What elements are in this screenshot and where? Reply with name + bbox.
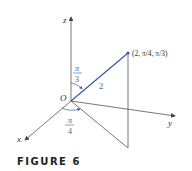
y-axis-label: y bbox=[167, 118, 172, 128]
x-axis bbox=[25, 101, 71, 140]
origin-label: O bbox=[60, 93, 67, 103]
spherical-coordinates-diagram: z y x O (2, π/4, π/3) 2 π 3 π 4 bbox=[0, 0, 192, 171]
figure-caption: FIGURE 6 bbox=[17, 156, 81, 167]
z-axis-label: z bbox=[62, 15, 67, 25]
radius-label: 2 bbox=[99, 81, 103, 91]
theta-denominator: 4 bbox=[68, 127, 72, 136]
radius-vector bbox=[71, 53, 128, 101]
point-label: (2, π/4, π/3) bbox=[132, 49, 168, 58]
point-marker bbox=[126, 51, 129, 54]
phi-denominator: 3 bbox=[75, 75, 79, 84]
theta-numerator: π bbox=[68, 116, 73, 125]
x-axis-label: x bbox=[16, 134, 21, 144]
theta-angle-arc bbox=[62, 108, 80, 110]
phi-numerator: π bbox=[75, 64, 80, 73]
